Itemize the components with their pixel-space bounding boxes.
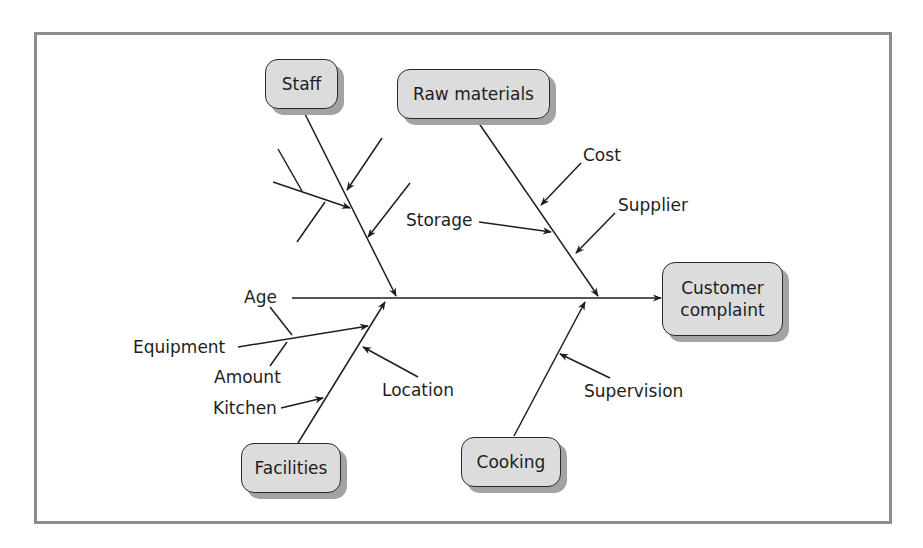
effect-box-customer-complaint: Customer complaint: [662, 262, 783, 336]
category-label: Staff: [282, 73, 322, 95]
facilities-bone: [298, 302, 385, 443]
cause-label-age: Age: [244, 287, 277, 307]
cause-label-kitchen: Kitchen: [213, 398, 277, 418]
category-label: Raw materials: [413, 83, 534, 105]
cause-label-location: Location: [382, 380, 454, 400]
staff-bone: [303, 110, 396, 296]
cause-label-supplier: Supplier: [618, 195, 688, 215]
cause-label-cost: Cost: [583, 145, 621, 165]
cooking-bone: [514, 302, 585, 436]
category-label: Facilities: [255, 457, 328, 479]
category-label: Cooking: [477, 451, 546, 473]
category-box-staff: Staff: [265, 59, 338, 109]
cause-label-equipment: Equipment: [133, 337, 225, 357]
cause-label-amount: Amount: [214, 367, 281, 387]
cause-label-supervision: Supervision: [584, 381, 683, 401]
raw-materials-bone: [476, 119, 598, 296]
category-box-cooking: Cooking: [461, 437, 561, 487]
category-box-facilities: Facilities: [241, 443, 341, 493]
effect-label: Customer complaint: [680, 277, 764, 321]
category-box-raw-materials: Raw materials: [397, 69, 550, 119]
cause-label-storage: Storage: [406, 210, 473, 230]
